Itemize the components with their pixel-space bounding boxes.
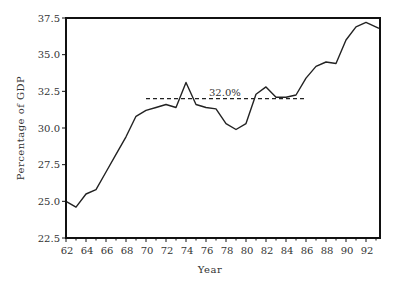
x-tick-label: 86	[301, 245, 314, 256]
average-label: 32.0%	[209, 87, 241, 98]
x-tick-label: 88	[321, 245, 334, 256]
x-tick-label: 82	[261, 245, 274, 256]
x-tick-label: 64	[81, 245, 94, 256]
x-tick-label: 76	[201, 245, 214, 256]
y-axis-title: Percentage of GDP	[15, 76, 26, 181]
data-line	[66, 22, 379, 207]
y-tick-label: 30.0	[38, 123, 60, 134]
x-tick-label: 66	[101, 245, 114, 256]
x-tick-label: 80	[241, 245, 254, 256]
x-tick-label: 92	[361, 245, 374, 256]
x-tick-label: 70	[141, 245, 154, 256]
x-tick-label: 72	[161, 245, 174, 256]
x-tick-label: 68	[121, 245, 134, 256]
plot-frame	[66, 18, 380, 238]
x-tick-label: 90	[341, 245, 354, 256]
y-axis-ticks: 22.525.027.530.032.535.037.5	[38, 13, 66, 244]
y-tick-label: 32.5	[38, 86, 60, 97]
y-tick-label: 27.5	[38, 159, 60, 170]
x-tick-label: 74	[181, 245, 194, 256]
y-tick-label: 22.5	[38, 233, 60, 244]
x-tick-label: 84	[281, 245, 294, 256]
x-tick-label: 78	[221, 245, 234, 256]
y-tick-label: 35.0	[38, 49, 60, 60]
x-axis-ticks: 62646668707274767880828486889092	[61, 238, 376, 256]
y-tick-label: 37.5	[38, 13, 60, 24]
x-tick-label: 62	[61, 245, 74, 256]
y-tick-label: 25.0	[38, 196, 60, 207]
line-chart: 22.525.027.530.032.535.037.5 62646668707…	[0, 0, 396, 288]
x-axis-title: Year	[197, 264, 222, 275]
